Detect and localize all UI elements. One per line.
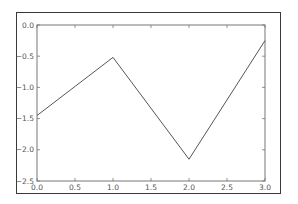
x-tick-label: 3.0 [259, 183, 271, 192]
y-tick-label: −2.5 [16, 177, 34, 186]
x-tick-label: 2.0 [183, 183, 195, 192]
y-tick-label: −1.5 [16, 114, 34, 123]
y-tick-label: −1.0 [16, 83, 34, 92]
y-tick-label: 0.0 [22, 21, 34, 30]
plot-area [37, 25, 265, 181]
y-tick-label: −2.0 [16, 145, 34, 154]
x-tick-label: 2.5 [221, 183, 233, 192]
x-tick-label: 0.5 [69, 183, 81, 192]
y-tick-label: −0.5 [16, 52, 34, 61]
line-chart: 0.00.51.01.52.02.53.0 0.0−0.5−1.0−1.5−2.… [0, 0, 298, 204]
x-tick-label: 1.0 [107, 183, 119, 192]
data-line [37, 41, 265, 160]
x-tick-label: 1.5 [145, 183, 157, 192]
